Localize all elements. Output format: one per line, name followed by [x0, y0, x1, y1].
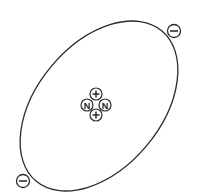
neutron-right: N [99, 99, 111, 111]
neutron-label: N [102, 101, 109, 111]
proton-top [90, 88, 102, 100]
atom-svg: N N [0, 0, 209, 196]
electron-bottom-left [17, 175, 30, 188]
electron-top-right [168, 25, 181, 38]
neutron-left: N [81, 99, 93, 111]
proton-bottom [90, 109, 102, 121]
neutron-label: N [84, 101, 91, 111]
nucleus: N N [81, 88, 111, 121]
helium-atom-diagram: N N [0, 0, 209, 196]
